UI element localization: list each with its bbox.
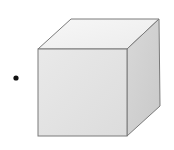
bullet-dot (13, 75, 18, 80)
cube-front-face (38, 49, 127, 136)
cube-diagram (0, 0, 174, 150)
cube-svg (0, 0, 174, 150)
